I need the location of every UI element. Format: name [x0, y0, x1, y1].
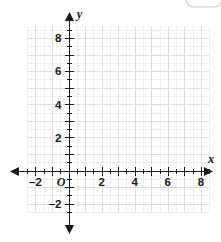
- x-axis-right-arrow: [204, 167, 213, 176]
- coordinate-plane-figure: –22468 8642–2 O x y: [0, 0, 221, 242]
- cropped-rounded-button-artifact: [186, 0, 221, 7]
- x-tick-label: 6: [165, 176, 171, 188]
- y-axis-label: y: [75, 7, 83, 21]
- x-tick-label: 4: [131, 176, 138, 188]
- y-axis-up-arrow: [65, 12, 74, 21]
- x-tick-label: –2: [29, 176, 42, 188]
- x-axis-left-arrow: [10, 167, 19, 176]
- y-tick-label: 6: [55, 65, 61, 77]
- coordinate-grid-svg: –22468 8642–2 O x y: [0, 0, 221, 242]
- origin-label: O: [57, 175, 66, 189]
- x-tick-label: 8: [198, 176, 205, 188]
- y-tick-label: 8: [55, 32, 62, 44]
- y-tick-label: 4: [55, 99, 62, 111]
- y-tick-label: –2: [49, 198, 62, 210]
- x-axis-tick-labels: –22468: [29, 176, 205, 188]
- x-tick-label: 2: [98, 176, 104, 188]
- x-axis-label: x: [207, 152, 214, 166]
- y-axis-down-arrow: [65, 225, 74, 234]
- axis-lines: [10, 12, 213, 234]
- major-gridlines: [27, 26, 209, 212]
- y-tick-label: 2: [55, 132, 61, 144]
